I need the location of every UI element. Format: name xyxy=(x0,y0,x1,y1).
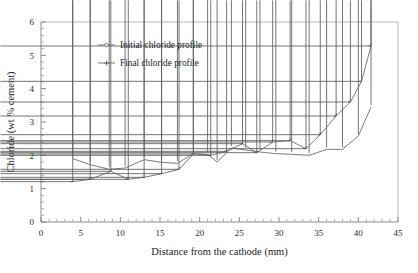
x-axis-tick-label: 35 xyxy=(314,228,324,238)
x-axis-tick-label: 5 xyxy=(78,228,83,238)
x-axis-tick-label: 30 xyxy=(275,228,285,238)
series-1-marker xyxy=(0,0,161,173)
y-axis-tick-label: 5 xyxy=(30,51,35,61)
x-axis-title: Distance from the cathode (mm) xyxy=(151,246,288,258)
legend-marker-0 xyxy=(104,43,108,47)
y-axis-tick-label: 0 xyxy=(30,217,35,227)
series-1-marker xyxy=(0,0,350,102)
series-1-marker xyxy=(0,0,144,177)
legend-label-0: Initial chloride profile xyxy=(120,40,202,50)
series-1-marker xyxy=(0,0,110,171)
x-axis-tick-label: 45 xyxy=(394,228,404,238)
y-axis-tick-label: 1 xyxy=(30,184,35,194)
legend-label-1: Final chloride profile xyxy=(120,58,199,68)
y-axis-tick-label: 3 xyxy=(30,117,35,127)
x-axis-tick-label: 10 xyxy=(116,228,126,238)
x-axis-tick-label: 20 xyxy=(195,228,205,238)
series-1-marker xyxy=(0,0,290,140)
x-axis-tick-label: 25 xyxy=(235,228,245,238)
x-axis-tick-label: 40 xyxy=(354,228,364,238)
series-1-marker xyxy=(0,0,371,46)
legend-marker-1 xyxy=(104,61,109,66)
series-1-marker xyxy=(0,0,226,151)
x-axis-tick-label: 15 xyxy=(156,228,166,238)
y-axis-tick-label: 4 xyxy=(30,84,35,94)
y-axis-tick-label: 6 xyxy=(30,17,35,27)
x-axis-tick-label: 0 xyxy=(39,228,44,238)
chart-figure: 0123456051015202530354045Distance from t… xyxy=(0,0,418,273)
line-chart: 0123456051015202530354045Distance from t… xyxy=(0,0,418,273)
y-axis-title: Chloride (wt % cement) xyxy=(5,71,17,173)
